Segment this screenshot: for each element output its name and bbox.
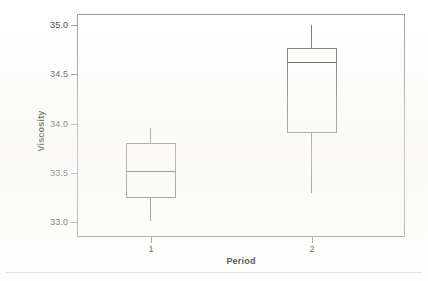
y-tick-label-33-0: 33.0	[32, 217, 68, 227]
scan-edge-line	[6, 272, 422, 273]
box-1-upper-whisker	[150, 128, 151, 144]
x-axis-title: Period	[77, 256, 405, 266]
y-tick-label-34-5: 34.5	[32, 69, 68, 79]
box-2-upper-whisker	[311, 25, 312, 49]
box-2-iqr-box	[287, 48, 337, 133]
box-1-median-line	[126, 171, 176, 172]
y-tick-mark-33-5	[71, 173, 77, 174]
box-2-median-line	[287, 62, 337, 63]
x-tick-label-2: 2	[292, 244, 332, 254]
box-2-lower-whisker	[311, 132, 312, 193]
y-tick-mark-35-0	[71, 25, 77, 26]
y-tick-label-35-0: 35.0	[32, 20, 68, 30]
x-tick-mark-1	[151, 237, 152, 243]
box-1-lower-whisker	[150, 197, 151, 221]
boxplot-screenshot: 35.0 34.5 34.0 33.5 33.0 Viscosity 1 2 P…	[0, 0, 428, 281]
y-tick-mark-34-5	[71, 74, 77, 75]
y-tick-mark-33-0	[71, 222, 77, 223]
y-tick-mark-34-0	[71, 124, 77, 125]
y-axis-title: Viscosity	[36, 86, 46, 176]
plot-area	[77, 14, 405, 237]
x-tick-mark-2	[312, 237, 313, 243]
x-tick-label-1: 1	[131, 244, 171, 254]
